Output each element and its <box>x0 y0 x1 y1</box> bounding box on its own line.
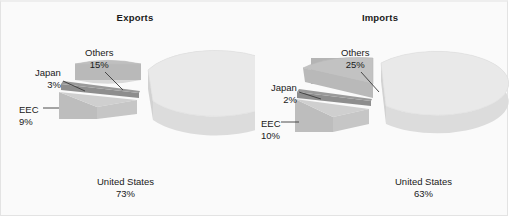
chart-panel-exports: Exports Others 15% <box>1 2 255 218</box>
pie-label-others-pct: 25% <box>341 59 370 71</box>
pie-label-japan-pct: 3% <box>35 79 61 91</box>
pie-label-japan-name: Japan <box>35 67 61 78</box>
pie-label-eec-name: EEC <box>261 118 281 129</box>
pie-label-others-pct: 15% <box>85 59 114 71</box>
chart-panel-imports: Imports Others 25% <box>255 2 509 218</box>
pie-label-japan-pct: 2% <box>271 94 297 106</box>
pie-label-united-states: United States 73% <box>97 176 154 199</box>
pie-label-united-states: United States 63% <box>395 176 452 199</box>
pie-label-united-states-pct: 63% <box>395 188 452 200</box>
pie-label-eec-pct: 10% <box>261 130 281 142</box>
pie-label-others: Others 15% <box>85 47 114 70</box>
pie-label-others: Others 25% <box>341 47 370 70</box>
pie-label-japan: Japan 3% <box>35 67 61 90</box>
pie-label-eec-name: EEC <box>19 104 39 115</box>
pie-label-others-name: Others <box>341 47 370 58</box>
pie-label-eec: EEC 10% <box>261 118 281 141</box>
slice-top-united-states <box>148 50 255 116</box>
pie-label-others-name: Others <box>85 47 114 58</box>
pie-label-japan-name: Japan <box>271 82 297 93</box>
pie-label-eec-pct: 9% <box>19 116 39 128</box>
pie-chart-imports <box>255 2 509 218</box>
pie-label-eec: EEC 9% <box>19 104 39 127</box>
pie-label-united-states-pct: 73% <box>97 188 154 200</box>
pie-label-japan: Japan 2% <box>271 82 297 105</box>
pie-label-united-states-name: United States <box>395 176 452 187</box>
pie-label-united-states-name: United States <box>97 176 154 187</box>
